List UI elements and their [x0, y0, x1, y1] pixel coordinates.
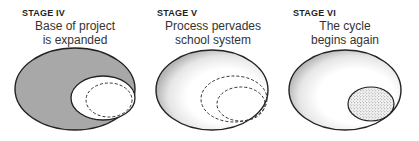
stage-vi-figure	[289, 50, 401, 130]
stages-diagram	[0, 0, 419, 141]
stage-iv-figure	[15, 48, 135, 130]
stage-iv-inner-ellipse	[71, 76, 135, 120]
stage-v-figure	[156, 50, 268, 130]
stage-v-outer-ellipse	[156, 50, 268, 130]
stage-vi-stippled-ellipse	[348, 87, 394, 121]
